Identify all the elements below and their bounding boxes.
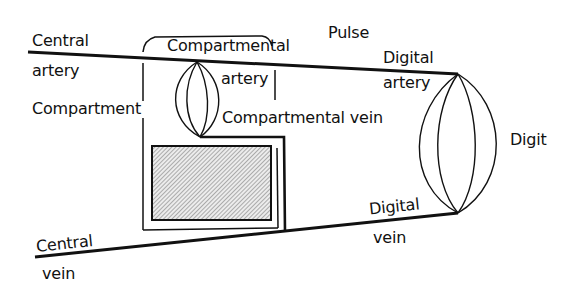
label-digital-artery-line2: artery [383, 75, 430, 91]
label-digital-artery-line1: Digital [383, 50, 434, 66]
compartmental-capillary-bed [176, 62, 219, 137]
label-compartmental-artery-line2: artery [221, 71, 268, 87]
label-digital-vein-line2: vein [373, 230, 406, 246]
circulation-diagram: Central artery Compartmental artery Puls… [0, 0, 580, 293]
label-central-vein-line2: vein [42, 266, 75, 282]
label-compartmental-vein: Compartmental vein [222, 110, 383, 126]
label-compartment: Compartment [32, 101, 141, 117]
label-digit: Digit [510, 132, 547, 148]
digit-capillary-bed [419, 74, 496, 213]
label-central-artery-line2: artery [32, 63, 79, 79]
label-compartmental-artery-line1: Compartmental [167, 38, 290, 54]
label-pulse: Pulse [328, 25, 369, 41]
label-central-artery-line1: Central [32, 33, 89, 49]
compartment-tissue-block [152, 146, 271, 220]
